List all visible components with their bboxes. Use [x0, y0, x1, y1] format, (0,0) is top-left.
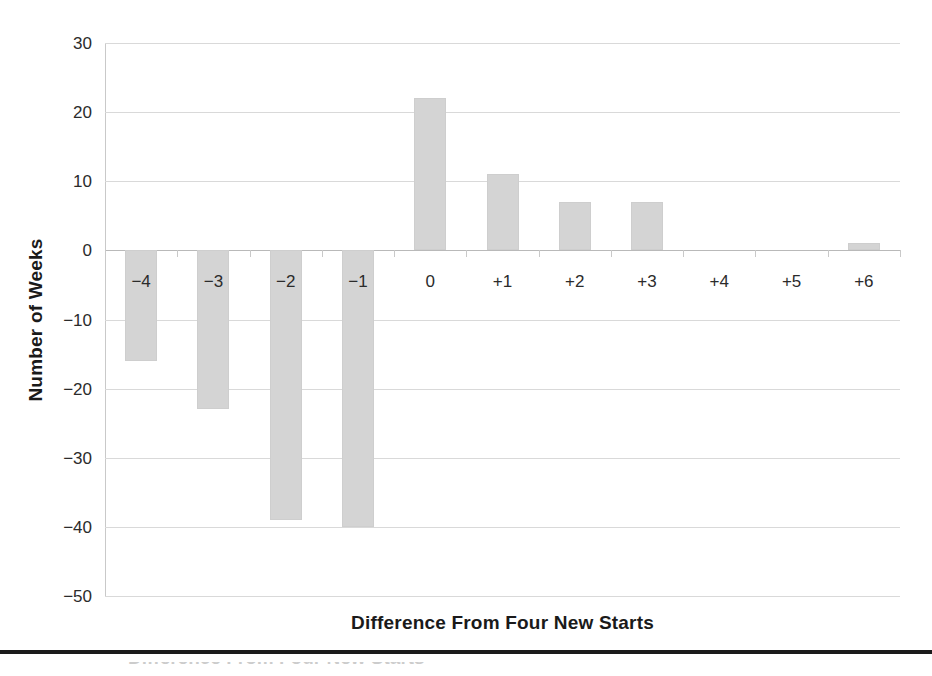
bar [414, 98, 446, 250]
bar [848, 243, 880, 250]
y-axis-tick-label: −30 [63, 449, 92, 466]
x-axis-tick-label: −3 [204, 272, 223, 292]
y-axis-tick-label: 10 [73, 173, 92, 190]
y-axis-tick-label: −20 [63, 380, 92, 397]
bar [487, 174, 519, 250]
x-axis-tick-label: −4 [131, 272, 150, 292]
x-axis-tickmark [466, 250, 467, 257]
x-axis-tick-label: +4 [710, 272, 729, 292]
y-axis-tick-label: −10 [63, 311, 92, 328]
y-axis-tick-label: −50 [63, 588, 92, 605]
plot-area: −4−3−2−10+1+2+3+4+5+6 [105, 43, 900, 596]
x-axis-tick-label: −2 [276, 272, 295, 292]
bars-layer [105, 43, 900, 596]
x-axis-tick-label: +2 [565, 272, 584, 292]
x-axis-tick-label: +6 [854, 272, 873, 292]
bar [631, 202, 663, 250]
bottom-divider-rule [0, 650, 932, 654]
x-axis-tick-label: +5 [782, 272, 801, 292]
x-axis-tickmark [755, 250, 756, 257]
x-axis-tickmark [394, 250, 395, 257]
x-axis-tickmark [177, 250, 178, 257]
x-axis-tickmark [105, 250, 106, 257]
clipped-caption-below-rule: Difference From Four New Starts [0, 662, 932, 676]
x-axis-tickmark [322, 250, 323, 257]
x-axis-tickmark [250, 250, 251, 257]
x-axis-tick-label: +3 [637, 272, 656, 292]
x-axis-tickmark [828, 250, 829, 257]
x-axis-tick-label: 0 [425, 272, 434, 292]
bar [559, 202, 591, 250]
x-axis-tickmark [611, 250, 612, 257]
y-axis-tick-label: 20 [73, 104, 92, 121]
bar [125, 250, 157, 361]
x-axis-tickmark [900, 250, 901, 257]
y-axis-tick-label: −40 [63, 518, 92, 535]
x-axis-tick-label: −1 [348, 272, 367, 292]
gridline [105, 596, 900, 597]
x-axis-tick-label: +1 [493, 272, 512, 292]
bar-chart-figure: Number of Weeks 3020100−10−20−30−40−50 −… [0, 0, 932, 676]
x-axis-tickmark [539, 250, 540, 257]
y-axis-tick-labels: 3020100−10−20−30−40−50 [34, 0, 96, 676]
y-axis-tick-label: 0 [83, 242, 92, 259]
x-axis-tickmark [683, 250, 684, 257]
y-axis-tick-label: 30 [73, 35, 92, 52]
x-axis-title: Difference From Four New Starts [105, 612, 900, 634]
